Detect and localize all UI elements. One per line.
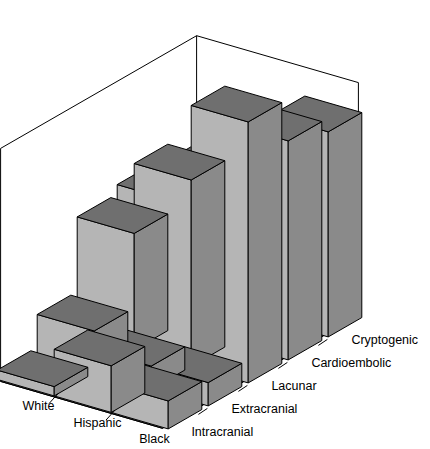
chart-bars [0,86,362,429]
bar-face-side [288,122,322,360]
x-axis-category-label: Black [139,432,170,446]
bar-face-side [134,214,168,350]
bar-face-side [328,113,362,337]
z-axis-depth-label: Extracranial [231,402,297,416]
z-axis-depth-label: Cardioembolic [311,356,391,370]
z-axis-depth-label: Lacunar [271,379,316,393]
chart-3d-bar: 0%10%20%30%40%50% WhiteHispanicBlack Int… [0,0,430,449]
x-axis-category-label: Hispanic [74,416,122,430]
z-axis-depth-label: Intracranial [191,425,253,439]
x-axis-category-label: White [23,399,55,413]
chart-canvas: 0%10%20%30%40%50% WhiteHispanicBlack Int… [0,0,430,449]
z-axis-depth-label: Cryptogenic [351,333,418,347]
bar-face-side [191,161,225,367]
bar-face-side [248,103,282,383]
